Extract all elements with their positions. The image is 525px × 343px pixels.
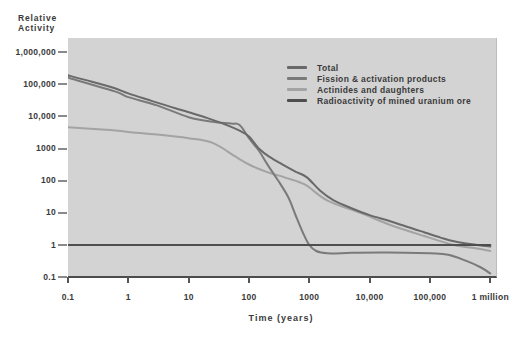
legend-label: Fission & activation products bbox=[317, 74, 446, 84]
y-axis-title-line2: Activity bbox=[18, 23, 57, 33]
x-tick-mark bbox=[489, 277, 491, 283]
legend: TotalFission & activation productsActini… bbox=[287, 62, 471, 106]
y-tick-label: 1 bbox=[12, 241, 56, 250]
y-tick-mark bbox=[58, 212, 67, 214]
y-tick-mark bbox=[58, 244, 67, 246]
legend-label: Total bbox=[317, 63, 338, 73]
legend-item: Actinides and daughters bbox=[287, 84, 471, 95]
x-tick-label: 1 million bbox=[458, 293, 522, 302]
x-tick-mark bbox=[127, 277, 129, 283]
y-tick-label: 1,000,000 bbox=[12, 48, 56, 57]
radioactivity-decay-chart: Relative Activity 1,000,000100,00010,000… bbox=[0, 0, 525, 343]
legend-item: Fission & activation products bbox=[287, 73, 471, 84]
x-tick-label: 1000 bbox=[277, 293, 341, 302]
y-tick-label: 1000 bbox=[12, 144, 56, 153]
y-tick-mark bbox=[58, 180, 67, 182]
legend-label: Actinides and daughters bbox=[317, 85, 424, 95]
legend-marker bbox=[287, 77, 307, 80]
y-tick-label: 100,000 bbox=[12, 80, 56, 89]
y-tick-mark bbox=[58, 148, 67, 150]
y-tick-label: 10,000 bbox=[12, 112, 56, 121]
legend-marker bbox=[287, 66, 307, 69]
x-tick-mark bbox=[369, 277, 371, 283]
y-axis-title: Relative Activity bbox=[18, 13, 57, 33]
y-tick-mark bbox=[58, 276, 67, 278]
x-tick-label: 1 bbox=[96, 293, 160, 302]
legend-item: Radioactivity of mined uranium ore bbox=[287, 95, 471, 106]
x-tick-label: 100,000 bbox=[398, 293, 462, 302]
x-tick-mark bbox=[67, 277, 69, 283]
x-tick-mark bbox=[248, 277, 250, 283]
x-axis-title: Time (years) bbox=[161, 313, 401, 323]
x-tick-label: 10 bbox=[157, 293, 221, 302]
x-tick-label: 100 bbox=[217, 293, 281, 302]
x-tick-mark bbox=[429, 277, 431, 283]
y-tick-label: 0.1 bbox=[12, 273, 56, 282]
legend-marker bbox=[287, 88, 307, 91]
y-axis-title-line1: Relative bbox=[18, 13, 57, 23]
x-tick-mark bbox=[308, 277, 310, 283]
x-tick-mark bbox=[188, 277, 190, 283]
y-tick-mark bbox=[58, 115, 67, 117]
y-tick-label: 100 bbox=[12, 176, 56, 185]
x-tick-label: 0.1 bbox=[36, 293, 100, 302]
y-tick-mark bbox=[58, 51, 67, 53]
x-tick-label: 10,000 bbox=[338, 293, 402, 302]
y-tick-label: 10 bbox=[12, 208, 56, 217]
y-tick-mark bbox=[58, 83, 67, 85]
legend-marker bbox=[287, 99, 307, 102]
legend-label: Radioactivity of mined uranium ore bbox=[317, 96, 471, 106]
legend-item: Total bbox=[287, 62, 471, 73]
